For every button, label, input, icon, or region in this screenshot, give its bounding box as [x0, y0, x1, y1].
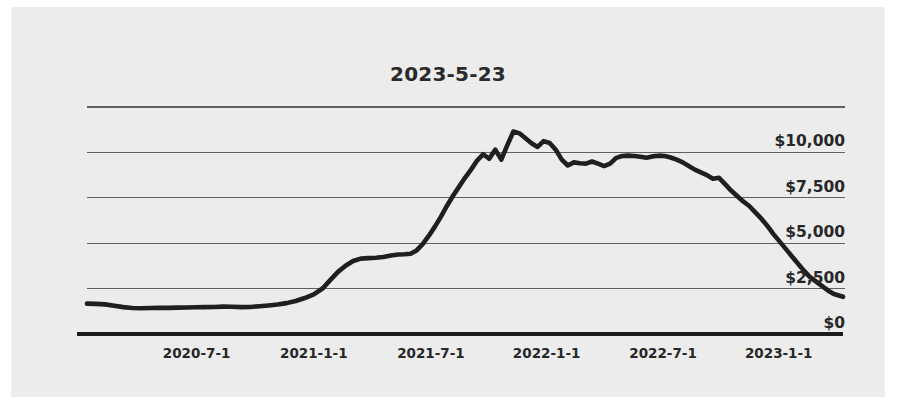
series-line — [87, 132, 843, 309]
x-axis-tick-label: 2023-1-1 — [745, 345, 813, 361]
plot-area — [11, 7, 885, 397]
gridlines-group — [87, 107, 845, 289]
x-axis-tick-label: 2022-7-1 — [629, 345, 697, 361]
x-axis-tick-label: 2021-1-1 — [280, 345, 348, 361]
y-axis-tick-label: $10,000 — [774, 132, 845, 150]
series-group — [87, 132, 843, 309]
y-axis-tick-label: $7,500 — [785, 178, 845, 196]
x-axis-tick-label: 2020-7-1 — [163, 345, 231, 361]
y-axis-tick-label: $2,500 — [785, 269, 845, 287]
x-axis-tick-label: 2022-1-1 — [513, 345, 581, 361]
y-axis-tick-label: $0 — [823, 314, 845, 332]
x-axis-tick-label: 2021-7-1 — [397, 345, 465, 361]
chart-panel: 2023-5-23 $10,000$7,500$5,000$2,500$0 20… — [11, 7, 885, 397]
chart-screenshot: 2023-5-23 $10,000$7,500$5,000$2,500$0 20… — [0, 0, 900, 409]
y-axis-tick-label: $5,000 — [785, 223, 845, 241]
